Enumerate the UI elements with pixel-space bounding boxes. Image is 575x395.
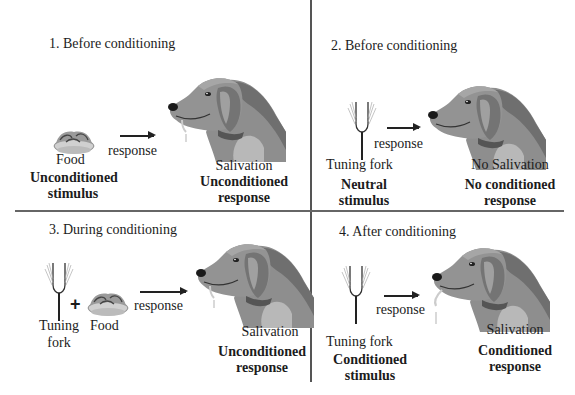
- response-type-line2: response: [470, 359, 560, 375]
- stimulus-a-line1: Tuning: [36, 318, 82, 334]
- stimulus-name: Tuning fork: [326, 334, 393, 350]
- stimulus-type-line2: stimulus: [330, 368, 410, 384]
- stimulus-name: Food: [56, 152, 85, 168]
- arrow-icon: [140, 291, 186, 293]
- panel-title: 1. Before conditioning: [49, 36, 175, 52]
- arrow-label: response: [134, 298, 183, 314]
- stimulus-type-line1: Unconditioned: [30, 170, 116, 186]
- response-type-line2: response: [200, 190, 288, 206]
- response-name: Salivation: [480, 322, 550, 338]
- response-type-line2: response: [460, 193, 560, 209]
- tuning-fork-icon: [342, 266, 370, 324]
- stimulus-type-line1: Conditioned: [330, 352, 410, 368]
- food-bowl-icon: [88, 290, 128, 318]
- arrow-icon: [384, 295, 418, 297]
- response-type-line1: Unconditioned: [200, 174, 288, 190]
- response-type-line1: No conditioned: [460, 177, 560, 193]
- response-name: Salivation: [208, 158, 280, 174]
- stimulus-b-name: Food: [90, 318, 119, 334]
- dog-head-icon: [432, 240, 550, 332]
- arrow-label: response: [376, 302, 425, 318]
- response-name: No Salivation: [465, 157, 555, 173]
- horizontal-divider: [15, 210, 564, 212]
- dog-head-icon: [196, 236, 314, 328]
- arrow-icon: [120, 135, 154, 137]
- stimulus-name: Tuning fork: [326, 157, 393, 173]
- stimulus-type-line1: Neutral: [334, 177, 394, 193]
- response-name: Salivation: [234, 324, 306, 340]
- response-type-line1: Unconditioned: [216, 344, 308, 360]
- arrow-icon: [387, 127, 419, 129]
- arrow-label: response: [108, 143, 157, 159]
- response-type-line2: response: [216, 360, 308, 376]
- stimulus-type-line2: stimulus: [30, 186, 116, 202]
- stimulus-type-line2: stimulus: [334, 193, 394, 209]
- arrow-label: response: [374, 136, 423, 152]
- dog-head-icon: [168, 70, 286, 162]
- panel-title: 4. After conditioning: [339, 224, 456, 240]
- plus-sign: +: [70, 294, 81, 315]
- tuning-fork-icon: [348, 102, 376, 160]
- panel-title: 3. During conditioning: [49, 222, 177, 238]
- response-type-line1: Conditioned: [470, 343, 560, 359]
- stimulus-a-line2: fork: [36, 335, 82, 351]
- tuning-fork-icon: [45, 263, 73, 321]
- panel-title: 2. Before conditioning: [331, 38, 457, 54]
